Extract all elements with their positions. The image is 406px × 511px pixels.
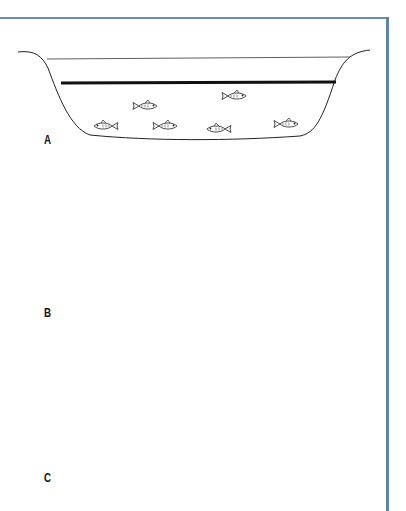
panel-label-a: A xyxy=(44,132,51,147)
lake-diagram xyxy=(0,0,406,511)
panel-a xyxy=(18,50,370,140)
panel-label-b: B xyxy=(44,305,51,320)
panel-label-c: C xyxy=(44,470,51,485)
fish-icon xyxy=(94,90,298,133)
